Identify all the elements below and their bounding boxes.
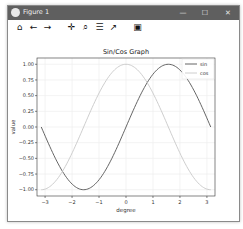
x-tick-label: 3 [205,199,208,205]
close-button[interactable]: ✕ [221,7,235,19]
x-tick-label: −1 [95,199,102,205]
minimize-button[interactable]: — [176,7,190,19]
x-tick-label: −3 [41,199,48,205]
maximize-button[interactable]: ☐ [198,7,212,19]
legend-label-sin: sin [200,61,207,67]
x-axis-label: degree [116,207,136,214]
edit-axis-icon[interactable]: ↗ [108,22,119,33]
sin-cos-chart: −3−2−101231.000.750.500.250.00−0.25−0.50… [8,36,239,221]
y-tick-label: 1.00 [23,61,34,67]
back-arrow-icon[interactable]: ← [28,22,39,33]
y-tick-label: 0.50 [23,92,34,98]
y-tick-label: −0.25 [19,139,34,145]
navigation-toolbar: ⌂ ← → ✛ ⌕ ☰ ↗ ▣ [8,20,239,36]
figure-window: Figure 1 — ☐ ✕ ⌂ ← → ✛ ⌕ ☰ ↗ ▣ −3−2−1012… [7,5,240,222]
y-tick-label: 0.00 [23,124,34,130]
legend-box [182,59,214,79]
x-tick-label: 0 [124,199,127,205]
y-tick-label: 0.75 [23,77,34,83]
y-tick-label: −0.75 [19,171,34,177]
configure-subplots-icon[interactable]: ☰ [94,22,105,33]
chart-title: Sin/Cos Graph [103,48,149,56]
y-tick-label: 0.25 [23,108,34,114]
title-bar[interactable]: Figure 1 — ☐ ✕ [8,6,239,20]
window-title: Figure 1 [23,8,49,16]
x-tick-label: 2 [178,199,181,205]
pan-icon[interactable]: ✛ [66,22,77,33]
y-axis-label: value [10,119,16,135]
figure-canvas[interactable]: −3−2−101231.000.750.500.250.00−0.25−0.50… [8,36,239,221]
legend-label-cos: cos [200,70,209,76]
y-tick-label: −0.50 [19,155,34,161]
x-tick-label: −2 [68,199,75,205]
y-tick-label: −1.00 [19,186,34,192]
forward-arrow-icon[interactable]: → [42,22,53,33]
home-icon[interactable]: ⌂ [14,22,25,33]
zoom-icon[interactable]: ⌕ [80,22,91,33]
save-icon[interactable]: ▣ [132,22,143,33]
matplotlib-app-icon [11,8,20,17]
x-tick-label: 1 [151,199,154,205]
